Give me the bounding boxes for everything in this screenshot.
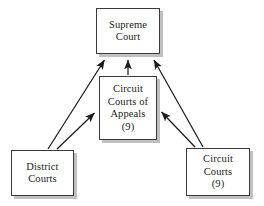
edge-circuit-to-appeals — [162, 112, 196, 147]
node-circuit-courts-of-appeals: Circuit Courts of Appeals (9) — [99, 76, 157, 140]
node-circuit-courts-count: (9) — [212, 178, 225, 191]
node-circuit-courts-of-appeals-count: (9) — [122, 121, 135, 134]
node-district-courts: District Courts — [11, 150, 74, 196]
node-circuit-courts-line-1: Circuit — [203, 153, 233, 166]
node-circuit-courts-of-appeals-line-2: Courts of — [108, 96, 148, 109]
node-circuit-courts: Circuit Courts (9) — [186, 148, 250, 196]
node-district-courts-line-2: Courts — [28, 173, 57, 186]
node-circuit-courts-line-2: Courts — [204, 166, 233, 179]
node-district-courts-line-1: District — [26, 161, 58, 174]
node-supreme-court: Supreme Court — [96, 8, 160, 54]
edge-district-to-appeals — [57, 113, 95, 149]
node-supreme-court-line-2: Court — [116, 31, 140, 44]
edge-district-to-supreme — [48, 60, 105, 149]
node-circuit-courts-of-appeals-line-1: Circuit — [113, 83, 143, 96]
edge-circuit-to-supreme — [154, 60, 203, 147]
node-supreme-court-line-1: Supreme — [109, 19, 147, 32]
court-hierarchy-diagram: Supreme Court Circuit Courts of Appeals … — [0, 0, 264, 206]
node-circuit-courts-of-appeals-line-3: Appeals — [110, 108, 145, 121]
